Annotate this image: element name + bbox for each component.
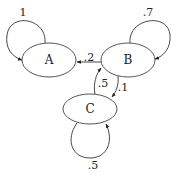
node-b: B [101, 43, 155, 77]
edge-c-to-c [71, 123, 109, 158]
node-b-label: B [124, 53, 133, 67]
node-c-label: C [85, 102, 94, 116]
edge-label-b-to-a: .2 [84, 51, 95, 64]
edge-label-b-to-b: .7 [143, 6, 154, 19]
edge-label-b-to-c: .1 [118, 81, 129, 94]
edge-label-c-to-b: .5 [98, 77, 109, 90]
edge-label-c-to-c: .5 [88, 159, 99, 172]
node-a: A [22, 43, 76, 77]
node-a-label: A [44, 53, 54, 67]
node-c: C [63, 94, 117, 124]
state-diagram: 1 .7 .2 .1 .5 .5 A B C [0, 0, 180, 177]
edge-label-a-to-a: 1 [20, 6, 27, 19]
